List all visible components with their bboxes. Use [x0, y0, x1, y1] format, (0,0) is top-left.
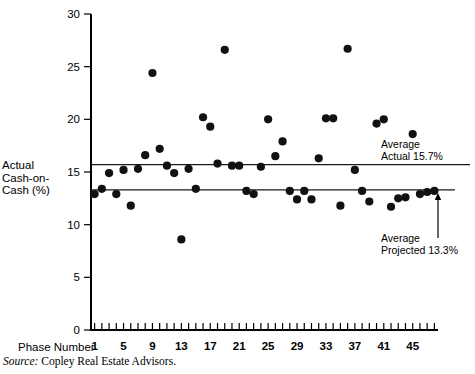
- average-projected-annotation: Average Projected 13.3%: [381, 232, 458, 256]
- x-tick-label-41: 41: [377, 340, 390, 352]
- source-value: Copley Real Estate Advisors.: [38, 355, 176, 367]
- data-point: [329, 114, 337, 122]
- data-point: [163, 162, 171, 170]
- data-point: [416, 190, 424, 198]
- data-point: [192, 185, 200, 193]
- data-point: [148, 69, 156, 77]
- x-tick-label-25: 25: [262, 340, 275, 352]
- data-point: [278, 137, 286, 145]
- data-point: [293, 195, 301, 203]
- y-axis-title: Actual Cash-on- Cash (%): [2, 159, 50, 197]
- data-point: [358, 187, 366, 195]
- y-tick-label-30: 30: [67, 8, 80, 20]
- y-tick-label-5: 5: [74, 271, 80, 283]
- x-axis-title: Phase Number: [18, 341, 95, 353]
- data-point: [344, 45, 352, 53]
- data-point: [250, 190, 258, 198]
- data-point: [286, 187, 294, 195]
- x-tick-label-37: 37: [348, 340, 361, 352]
- plot-canvas: 051015202530159131721252933374145: [0, 0, 475, 374]
- scatter-chart: 051015202530159131721252933374145 Actual…: [0, 0, 475, 374]
- data-point: [307, 195, 315, 203]
- y-tick-label-15: 15: [67, 166, 80, 178]
- source-caption: Source: Copley Real Estate Advisors.: [3, 355, 176, 367]
- y-tick-label-20: 20: [67, 113, 80, 125]
- data-point: [134, 165, 142, 173]
- y-tick-label-25: 25: [67, 61, 80, 73]
- data-point: [257, 163, 265, 171]
- x-tick-label-5: 5: [120, 340, 127, 352]
- data-point: [156, 145, 164, 153]
- data-point: [242, 187, 250, 195]
- axis-lines: [91, 14, 438, 330]
- y-tick-label-0: 0: [74, 324, 80, 336]
- data-point: [401, 193, 409, 201]
- data-point: [213, 159, 221, 167]
- data-point: [409, 130, 417, 138]
- data-point: [315, 154, 323, 162]
- data-point: [271, 152, 279, 160]
- data-point: [141, 151, 149, 159]
- x-tick-label-29: 29: [291, 340, 304, 352]
- data-point: [91, 190, 99, 198]
- x-tick-label-9: 9: [149, 340, 155, 352]
- data-point: [336, 202, 344, 210]
- x-tick-label-13: 13: [175, 340, 188, 352]
- data-point: [235, 162, 243, 170]
- data-point: [112, 190, 120, 198]
- data-point: [264, 115, 272, 123]
- data-point: [322, 114, 330, 122]
- data-point: [423, 188, 431, 196]
- data-point: [365, 197, 373, 205]
- data-point: [105, 169, 113, 177]
- x-tick-label-21: 21: [233, 340, 246, 352]
- data-point: [351, 166, 359, 174]
- y-tick-label-10: 10: [67, 219, 80, 231]
- x-tick-label-33: 33: [320, 340, 333, 352]
- data-point: [177, 235, 185, 243]
- data-point: [127, 202, 135, 210]
- average-actual-annotation: Average Actual 15.7%: [381, 138, 443, 162]
- source-label: Source:: [3, 355, 38, 367]
- data-point: [98, 185, 106, 193]
- data-point: [372, 119, 380, 127]
- data-point: [228, 162, 236, 170]
- data-point: [170, 169, 178, 177]
- data-point: [119, 166, 127, 174]
- x-tick-label-45: 45: [406, 340, 419, 352]
- data-point: [394, 194, 402, 202]
- data-point: [199, 113, 207, 121]
- data-point: [221, 46, 229, 54]
- data-point: [206, 123, 214, 131]
- data-point: [387, 203, 395, 211]
- data-point: [430, 187, 438, 195]
- x-tick-label-17: 17: [204, 340, 217, 352]
- data-point: [300, 187, 308, 195]
- data-point: [184, 165, 192, 173]
- data-point: [380, 115, 388, 123]
